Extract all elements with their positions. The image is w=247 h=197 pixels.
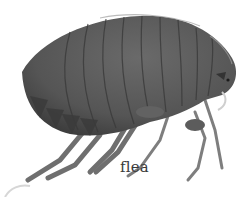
eye-icon xyxy=(226,78,229,81)
flea-label: flea xyxy=(120,158,149,176)
flea-figure: flea xyxy=(0,0,247,197)
